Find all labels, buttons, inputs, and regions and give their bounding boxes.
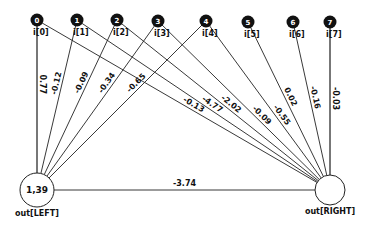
edge-3-left [47, 21, 158, 176]
input-port-label: i[1] [73, 28, 89, 37]
input-port-label: i[3] [154, 29, 170, 38]
input-port-label: i[6] [289, 30, 305, 39]
input-port-label: i[4] [202, 29, 218, 38]
edge-2-left [44, 20, 117, 175]
weight-label: -0.16 [308, 85, 322, 110]
input-node-id: 7 [328, 19, 333, 27]
edge-1-left [41, 20, 77, 173]
input-node-id: 0 [35, 17, 40, 25]
output-label: out[RIGHT] [305, 207, 355, 216]
weight-label: -3.74 [173, 179, 196, 188]
edge-6-right [293, 22, 327, 175]
weight-label: -0.12 [49, 71, 63, 96]
input-node-id: 4 [204, 18, 209, 26]
network-diagram: 0.77-0.12-0.09-0.34-0.65-0.13-4.77-2.02-… [0, 0, 366, 226]
input-node-id: 5 [246, 19, 251, 27]
weight-labels: 0.77-0.12-0.09-0.34-0.65-0.13-4.77-2.02-… [38, 70, 340, 188]
weight-label: -0.03 [331, 87, 340, 110]
network-canvas: 0.77-0.12-0.09-0.34-0.65-0.13-4.77-2.02-… [0, 0, 366, 226]
input-port-label: i[0] [33, 28, 49, 37]
input-port-label: i[7] [326, 30, 342, 39]
input-node-id: 6 [291, 19, 296, 27]
output-value: 1,39 [26, 185, 48, 195]
weight-label: -0.34 [96, 71, 117, 95]
output-label: out[LEFT] [15, 209, 59, 218]
input-node-id: 1 [75, 17, 80, 25]
edges [37, 20, 330, 190]
input-node-id: 2 [115, 17, 120, 25]
input-port-label: i[2] [113, 28, 129, 37]
input-port-label: i[5] [244, 30, 260, 39]
output-node-right [315, 175, 345, 205]
input-node-id: 3 [156, 18, 161, 26]
weight-label: 0.77 [38, 74, 47, 94]
